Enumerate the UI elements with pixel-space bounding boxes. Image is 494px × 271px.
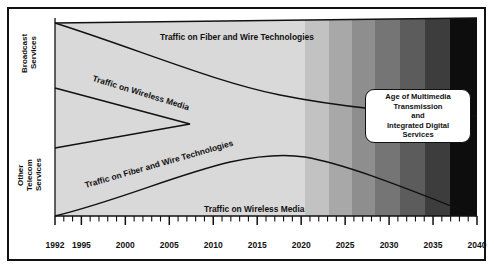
x-axis-tick-label: 2025 [325,240,365,250]
x-axis-tick-label: 2000 [105,240,145,250]
callout-text: Age of Multimedia Transmission and Integ… [385,92,450,140]
shade-band-3 [329,10,352,220]
callout-box: Age of Multimedia Transmission and Integ… [365,89,471,143]
x-axis-tick-label: 2005 [149,240,189,250]
x-axis-tick-label: 2030 [369,240,409,250]
figure-root: Broadcast Services Other Telecom Service… [0,0,494,271]
band-label-telecom-wireless: Traffic on Wireless Media [204,204,304,214]
y-axis-label-broadcast: Broadcast Services [20,22,42,84]
x-axis-tick-label: 2010 [193,240,233,250]
x-axis-tick-label: 2015 [237,240,277,250]
x-axis-tick-label: 2035 [413,240,453,250]
x-axis-ticks [55,216,477,225]
x-axis-tick-label: 2040 [457,240,494,250]
y-axis-label-telecom: Other Telecom Services [16,140,46,210]
x-axis-tick-label: 2020 [281,240,321,250]
x-axis-tick-label: 1995 [61,240,101,250]
band-label-broadcast-fiber: Traffic on Fiber and Wire Technologies [160,32,314,42]
